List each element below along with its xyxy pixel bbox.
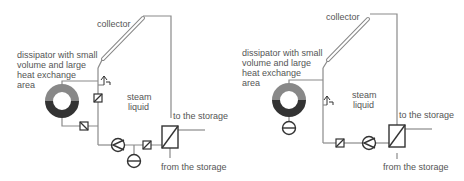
dissipator-label-line2: volume and large <box>17 60 86 70</box>
heat-exchanger-icon <box>162 126 178 148</box>
check-valve-icon <box>336 139 344 147</box>
collector-icon <box>328 19 368 60</box>
collector-label: collector <box>326 12 360 22</box>
check-valve-icon <box>143 141 151 149</box>
diagram-right: collector dissipator with small volume a… <box>232 0 464 181</box>
diagram-left: collector dissipator with small volume a… <box>0 0 232 181</box>
dissipator-label-line1: dissipator with small <box>242 48 323 58</box>
dissipator-label-line2: volume and large <box>242 58 311 68</box>
steam-label: steam <box>352 90 377 100</box>
to-storage-label: to the storage <box>399 110 454 120</box>
pump-icon <box>363 137 376 150</box>
collector-label: collector <box>97 19 131 29</box>
valve-icon <box>94 94 102 102</box>
expansion-vessel-icon <box>283 122 296 135</box>
dissipator-icon <box>276 87 302 113</box>
heat-exchanger-icon <box>389 125 405 147</box>
dissipator-label-line3: heat exchange <box>17 70 76 80</box>
pump-icon <box>112 139 125 152</box>
dissipator-label-line4: area <box>17 80 35 90</box>
liquid-label: liquid <box>128 102 149 112</box>
from-storage-label: from the storage <box>383 162 449 172</box>
dissipator-label-line4: area <box>242 78 260 88</box>
steam-label: steam <box>127 92 152 102</box>
safety-valve-icon <box>101 76 110 85</box>
dissipator-icon <box>49 88 75 114</box>
liquid-label: liquid <box>353 100 374 110</box>
dissipator-label-line3: heat exchange <box>242 68 301 78</box>
valve-icon <box>80 122 88 130</box>
from-storage-label: from the storage <box>161 162 227 172</box>
expansion-vessel-icon <box>128 155 141 168</box>
schematic-right <box>232 0 464 181</box>
to-storage-label: to the storage <box>173 111 228 121</box>
safety-valve-icon <box>324 96 333 105</box>
dissipator-label-line1: dissipator with small <box>17 50 98 60</box>
